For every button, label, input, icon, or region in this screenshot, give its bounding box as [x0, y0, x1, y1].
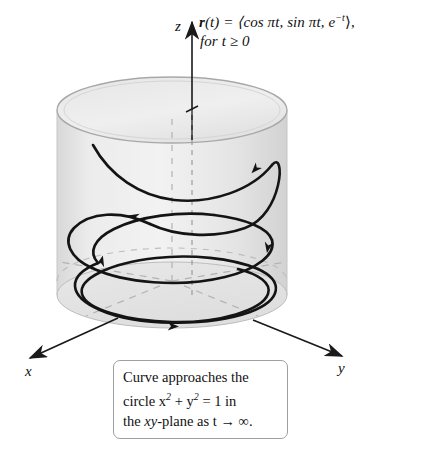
equation-exponent: −t [335, 12, 345, 23]
curve-equation: r(t) = ⟨cos πt, sin πt, e−t⟩, for t ≥ 0 [199, 8, 355, 51]
equation-domain: for t ≥ 0 [199, 32, 355, 51]
callout-line-2: circle x2 + y2 = 1 in [123, 387, 279, 411]
axis-y [253, 320, 342, 356]
equation-body: (t) = ⟨cos πt, sin πt, e [205, 14, 335, 30]
axis-x [30, 318, 118, 358]
callout-line-3: the xy-plane as t → ∞. [123, 411, 279, 431]
callout-line2-a: circle x [123, 393, 166, 409]
cylinder-bottom-ellipse [57, 262, 287, 328]
axis-label-x: x [25, 363, 32, 380]
callout-line-1: Curve approaches the [123, 367, 279, 387]
callout-line3-b: -plane as t → ∞. [157, 413, 252, 429]
equation-close: ⟩, [345, 14, 355, 30]
axis-label-z: z [175, 18, 181, 35]
callout-line3-a: the [123, 413, 144, 429]
figure-canvas: r(t) = ⟨cos πt, sin πt, e−t⟩, for t ≥ 0 … [0, 0, 426, 458]
callout-box: Curve approaches the circle x2 + y2 = 1 … [113, 360, 288, 439]
axis-label-y: y [338, 360, 345, 377]
callout-line3-plane: xy [144, 413, 157, 429]
callout-line2-b: + y [171, 393, 194, 409]
callout-line2-c: = 1 in [199, 393, 237, 409]
